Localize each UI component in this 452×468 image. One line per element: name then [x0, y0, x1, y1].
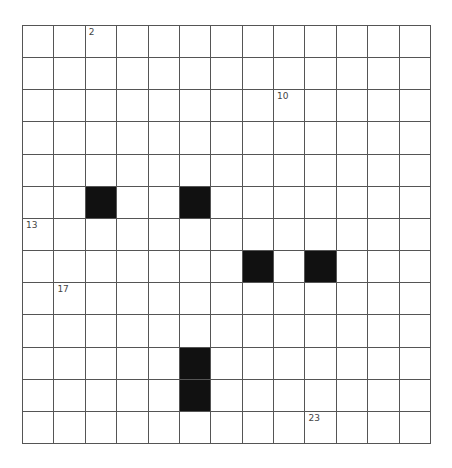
- crossword-cell[interactable]: [305, 90, 336, 122]
- crossword-cell[interactable]: [54, 155, 85, 187]
- crossword-cell[interactable]: [211, 155, 242, 187]
- crossword-cell[interactable]: [305, 348, 336, 380]
- crossword-cell[interactable]: [305, 58, 336, 90]
- crossword-cell[interactable]: [54, 187, 85, 219]
- crossword-cell[interactable]: [243, 122, 274, 154]
- crossword-cell[interactable]: [274, 315, 305, 347]
- crossword-cell[interactable]: [23, 122, 54, 154]
- crossword-cell[interactable]: [400, 187, 431, 219]
- crossword-cell[interactable]: [274, 412, 305, 444]
- crossword-cell[interactable]: [243, 58, 274, 90]
- crossword-cell[interactable]: [86, 283, 117, 315]
- crossword-cell[interactable]: [117, 26, 148, 58]
- crossword-cell[interactable]: [23, 187, 54, 219]
- crossword-cell[interactable]: [368, 155, 399, 187]
- crossword-cell[interactable]: [149, 219, 180, 251]
- crossword-cell[interactable]: [368, 122, 399, 154]
- crossword-cell[interactable]: [211, 26, 242, 58]
- crossword-cell[interactable]: [86, 412, 117, 444]
- crossword-cell[interactable]: [117, 219, 148, 251]
- crossword-cell[interactable]: [305, 283, 336, 315]
- crossword-cell[interactable]: [117, 251, 148, 283]
- crossword-cell[interactable]: [337, 122, 368, 154]
- crossword-cell[interactable]: [117, 90, 148, 122]
- crossword-cell[interactable]: [86, 251, 117, 283]
- crossword-cell[interactable]: [243, 315, 274, 347]
- crossword-cell[interactable]: [149, 380, 180, 412]
- crossword-cell[interactable]: [368, 187, 399, 219]
- crossword-cell[interactable]: [337, 58, 368, 90]
- crossword-cell[interactable]: [23, 90, 54, 122]
- crossword-cell[interactable]: [117, 155, 148, 187]
- crossword-cell[interactable]: [180, 219, 211, 251]
- crossword-cell[interactable]: [117, 412, 148, 444]
- crossword-cell[interactable]: [305, 26, 336, 58]
- crossword-cell[interactable]: [149, 58, 180, 90]
- crossword-cell[interactable]: [337, 26, 368, 58]
- crossword-cell[interactable]: [243, 187, 274, 219]
- crossword-cell[interactable]: [54, 58, 85, 90]
- crossword-cell[interactable]: [274, 348, 305, 380]
- crossword-cell[interactable]: [337, 412, 368, 444]
- crossword-cell[interactable]: [337, 155, 368, 187]
- crossword-cell[interactable]: [274, 251, 305, 283]
- crossword-cell[interactable]: [23, 412, 54, 444]
- crossword-cell[interactable]: [368, 58, 399, 90]
- crossword-cell[interactable]: [337, 283, 368, 315]
- crossword-cell[interactable]: [368, 380, 399, 412]
- crossword-cell[interactable]: [305, 187, 336, 219]
- crossword-cell[interactable]: [23, 155, 54, 187]
- crossword-cell[interactable]: 17: [54, 283, 85, 315]
- crossword-cell[interactable]: [180, 90, 211, 122]
- crossword-cell[interactable]: [86, 348, 117, 380]
- crossword-cell[interactable]: [274, 219, 305, 251]
- crossword-cell[interactable]: 10: [274, 90, 305, 122]
- crossword-cell[interactable]: [305, 315, 336, 347]
- crossword-cell[interactable]: [54, 380, 85, 412]
- crossword-cell[interactable]: [400, 380, 431, 412]
- crossword-cell[interactable]: [54, 219, 85, 251]
- crossword-cell[interactable]: [337, 187, 368, 219]
- crossword-cell[interactable]: [180, 26, 211, 58]
- crossword-cell[interactable]: [274, 155, 305, 187]
- crossword-cell[interactable]: [54, 412, 85, 444]
- crossword-cell[interactable]: [23, 380, 54, 412]
- crossword-cell[interactable]: [23, 283, 54, 315]
- crossword-cell[interactable]: [117, 283, 148, 315]
- crossword-cell[interactable]: [117, 315, 148, 347]
- crossword-cell[interactable]: [180, 315, 211, 347]
- crossword-cell[interactable]: [368, 283, 399, 315]
- crossword-cell[interactable]: [305, 380, 336, 412]
- crossword-cell[interactable]: [368, 412, 399, 444]
- crossword-cell[interactable]: [243, 380, 274, 412]
- crossword-cell[interactable]: [86, 58, 117, 90]
- crossword-cell[interactable]: [211, 251, 242, 283]
- crossword-cell[interactable]: [400, 348, 431, 380]
- crossword-cell[interactable]: [400, 26, 431, 58]
- crossword-cell[interactable]: [86, 315, 117, 347]
- crossword-cell[interactable]: [243, 155, 274, 187]
- crossword-cell[interactable]: [149, 348, 180, 380]
- crossword-cell[interactable]: [117, 58, 148, 90]
- crossword-cell[interactable]: [211, 412, 242, 444]
- crossword-cell[interactable]: [86, 122, 117, 154]
- crossword-cell[interactable]: [243, 90, 274, 122]
- crossword-cell[interactable]: [23, 348, 54, 380]
- crossword-cell[interactable]: [337, 315, 368, 347]
- crossword-cell[interactable]: [117, 348, 148, 380]
- crossword-cell[interactable]: [211, 187, 242, 219]
- crossword-cell[interactable]: [54, 251, 85, 283]
- crossword-cell[interactable]: [400, 90, 431, 122]
- crossword-cell[interactable]: [243, 412, 274, 444]
- crossword-cell[interactable]: [149, 283, 180, 315]
- crossword-cell[interactable]: [117, 122, 148, 154]
- crossword-cell[interactable]: [337, 251, 368, 283]
- crossword-cell[interactable]: [274, 380, 305, 412]
- crossword-cell[interactable]: [211, 380, 242, 412]
- crossword-cell[interactable]: [54, 26, 85, 58]
- crossword-cell[interactable]: [180, 122, 211, 154]
- crossword-cell[interactable]: [54, 348, 85, 380]
- crossword-cell[interactable]: [149, 155, 180, 187]
- crossword-cell[interactable]: [368, 315, 399, 347]
- crossword-cell[interactable]: [274, 283, 305, 315]
